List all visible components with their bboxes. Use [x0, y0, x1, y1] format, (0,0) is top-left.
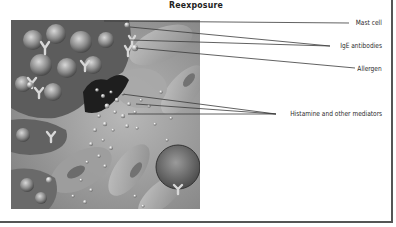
label-histamine-mediators: Histamine and other mediators — [290, 109, 382, 118]
frame-border-right — [391, 0, 393, 223]
frame-border-bottom — [0, 221, 393, 223]
allergen-glyph — [132, 45, 138, 51]
figure-title: Reexposure — [154, 0, 239, 10]
mast-cell-illustration — [11, 20, 200, 209]
round-cell — [156, 145, 200, 189]
label-ige-antibodies: IgE antibodies — [340, 41, 382, 50]
label-mast-cell: Mast cell — [356, 18, 382, 27]
label-allergen: Allergen — [358, 64, 382, 73]
